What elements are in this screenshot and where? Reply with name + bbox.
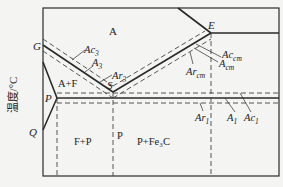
region-ferrite-pearlite: F+P (74, 136, 92, 147)
non-equilibrium-lines (43, 31, 279, 176)
point-p-label: P (44, 92, 52, 104)
label-a1: A1 (226, 112, 237, 126)
point-g-label: G (33, 40, 41, 52)
label-ac3: Ac3 (83, 44, 99, 58)
region-austenite: A (109, 25, 117, 37)
region-pearlite-cementite: P+Fe₃C (137, 136, 170, 147)
label-ac1: Ac1 (243, 112, 259, 126)
ac3-line (43, 39, 113, 86)
y-axis-label: 温度/°C (6, 77, 19, 114)
gs-line-a3 (43, 45, 113, 92)
label-ar1: Ar1 (194, 112, 209, 126)
label-arcm: Arcm (185, 66, 206, 80)
point-e-label: E (207, 19, 215, 31)
je-line (178, 8, 211, 33)
accm-line (113, 31, 205, 86)
label-ar3: Ar3 (111, 70, 127, 84)
se-line-acm (113, 33, 211, 92)
region-austenite-ferrite: A+F (58, 78, 78, 89)
point-q-label: Q (29, 126, 37, 138)
phase-diagram: 温度/°C G S E P Q A A+F F+P P P+Fe₃C Ac3 A… (0, 0, 283, 187)
label-a3: A3 (91, 57, 102, 71)
region-pearlite: P (117, 130, 123, 141)
